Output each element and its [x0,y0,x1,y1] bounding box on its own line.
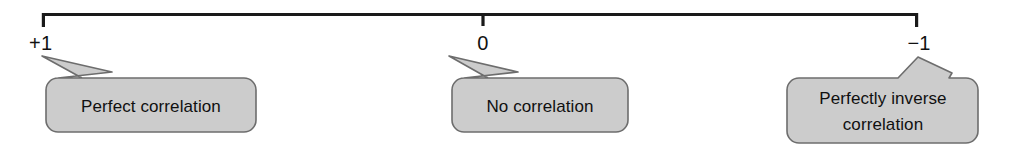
callout-no-correlation-shape [449,56,628,132]
callout-perfect-correlation-shape [42,56,256,132]
callout-perfect-correlation: Perfect correlation [42,56,256,132]
scale-axis [42,13,918,27]
scale-tick-labels: +1 0 −1 [29,32,931,54]
callout-perfect-correlation-label: Perfect correlation [81,97,221,116]
correlation-scale-diagram: +1 0 −1 Perfect correlation No correlati… [0,0,1011,148]
callout-perfectly-inverse-correlation: Perfectly inverse correlation [787,57,978,143]
tick-label-zero: 0 [477,32,488,54]
tick-label-minus-one: −1 [907,32,930,54]
callout-perfectly-inverse-correlation-label-line1: Perfectly inverse [819,89,946,108]
callout-no-correlation: No correlation [449,56,628,132]
diagram-canvas: +1 0 −1 Perfect correlation No correlati… [0,0,1011,148]
tick-label-plus-one: +1 [29,32,52,54]
callout-perfectly-inverse-correlation-label-line2: correlation [843,115,923,134]
callout-no-correlation-label: No correlation [486,97,593,116]
